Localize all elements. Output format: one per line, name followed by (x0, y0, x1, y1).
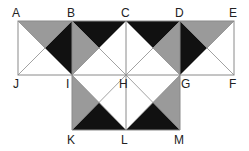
label-H: H (119, 77, 128, 91)
label-M: M (174, 133, 184, 147)
label-A: A (12, 6, 20, 20)
label-K: K (67, 133, 75, 147)
label-B: B (67, 6, 75, 20)
geometry-diagram: A B C D E J I H G F K L M (0, 0, 249, 151)
label-C: C (121, 6, 130, 20)
label-D: D (175, 6, 184, 20)
label-E: E (229, 6, 237, 20)
label-J: J (13, 77, 19, 91)
label-G: G (181, 77, 190, 91)
label-L: L (121, 133, 128, 147)
label-I: I (66, 77, 69, 91)
label-F: F (229, 77, 236, 91)
